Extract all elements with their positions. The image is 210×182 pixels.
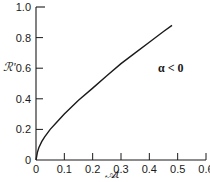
axes <box>36 7 206 160</box>
x-tick-label: 0.6 <box>198 163 210 175</box>
y-tick-label: 0 <box>25 154 31 166</box>
x-tick-label: 0.1 <box>57 163 72 175</box>
alpha-annotation: α < 0 <box>158 61 184 75</box>
y-tick-label: 0.2 <box>16 123 31 135</box>
x-ticks: 00.10.20.30.40.50.6 <box>33 153 210 175</box>
x-tick-label: 0.5 <box>170 163 185 175</box>
y-tick-label: 1.0 <box>16 1 31 13</box>
y-axis-label: ℛ' <box>3 60 16 74</box>
y-tick-label: 0.8 <box>16 32 31 44</box>
data-curve <box>36 25 172 160</box>
chart: 00.20.40.60.81.0 00.10.20.30.40.50.6 ℛ' … <box>0 0 210 182</box>
y-ticks: 00.20.40.60.81.0 <box>16 1 43 166</box>
x-tick-label: 0.2 <box>85 163 100 175</box>
y-tick-label: 0.4 <box>16 93 31 105</box>
x-tick-label: 0.4 <box>142 163 157 175</box>
y-tick-label: 0.6 <box>16 62 31 74</box>
x-tick-label: 0 <box>33 163 39 175</box>
x-axis-label: 𝒜t <box>105 167 120 181</box>
